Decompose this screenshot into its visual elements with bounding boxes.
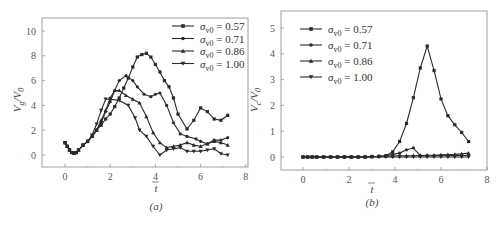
triangle-up-marker-icon	[144, 114, 148, 118]
circle-marker-icon	[412, 146, 415, 149]
square-marker-icon	[398, 140, 401, 143]
triangle-down-marker-icon	[158, 153, 162, 157]
square-marker-icon	[467, 140, 470, 143]
square-marker-icon	[185, 127, 188, 130]
legend-label: σv0 = 0.57	[328, 23, 373, 38]
plot-frame-b	[281, 11, 487, 170]
y-tick-label: 3	[270, 74, 275, 85]
panel-a: 024680246810 σv0 = 0.57σv0 = 0.71σv0 = 0…	[11, 18, 248, 213]
square-marker-icon	[113, 105, 116, 108]
circle-marker-icon	[149, 95, 152, 98]
triangle-down-marker-icon	[99, 109, 103, 113]
panel-label-b: (b)	[366, 196, 379, 209]
square-marker-icon	[433, 69, 436, 72]
square-marker-icon	[163, 79, 166, 82]
square-marker-icon	[439, 97, 442, 100]
circle-marker-icon	[199, 140, 202, 143]
panel-b: 02468012345 σv0 = 0.57σv0 = 0.71σv0 = 0.…	[248, 11, 490, 209]
circle-marker-icon	[154, 93, 157, 96]
square-marker-icon	[140, 53, 143, 56]
square-marker-icon	[172, 96, 175, 99]
figure: 024680246810 σv0 = 0.57σv0 = 0.71σv0 = 0…	[0, 0, 502, 227]
circle-marker-icon	[118, 79, 121, 82]
circle-marker-icon	[165, 104, 168, 107]
y-axis-label-b: Vc/V0	[248, 88, 263, 112]
axis-ticks-b: 02468012345	[270, 23, 490, 186]
x-tick-label: 6	[198, 171, 203, 182]
square-marker-icon	[192, 119, 195, 122]
square-marker-icon	[453, 123, 456, 126]
square-marker-icon	[122, 86, 125, 89]
square-marker-icon	[219, 119, 222, 122]
square-marker-icon	[405, 122, 408, 125]
circle-marker-icon	[185, 135, 188, 138]
square-marker-icon	[131, 65, 134, 68]
square-marker-icon	[109, 112, 112, 115]
circle-marker-icon	[124, 74, 127, 77]
square-marker-icon	[226, 114, 229, 117]
legend-b: σv0 = 0.57σv0 = 0.71σv0 = 0.86σv0 = 1.00	[300, 23, 373, 86]
x-tick-label: 8	[243, 171, 248, 182]
square-marker-icon	[460, 131, 463, 134]
legend-item: σv0 = 0.57	[300, 23, 373, 38]
triangle-down-marker-icon	[95, 122, 99, 126]
x-tick-label: 8	[485, 174, 490, 185]
circle-marker-icon	[405, 148, 408, 151]
triangle-up-marker-icon	[185, 141, 189, 145]
circle-marker-icon	[226, 136, 229, 139]
y-tick-label: 2	[270, 100, 275, 111]
square-marker-icon	[158, 70, 161, 73]
square-marker-icon	[426, 44, 429, 47]
circle-marker-icon	[181, 37, 185, 41]
square-marker-icon	[181, 24, 185, 28]
circle-marker-icon	[143, 93, 146, 96]
square-marker-icon	[176, 112, 179, 115]
square-marker-icon	[149, 55, 152, 58]
circle-marker-icon	[158, 91, 161, 94]
triangle-down-marker-icon	[133, 116, 137, 120]
y-tick-label: 4	[31, 100, 36, 111]
y-tick-label: 6	[31, 75, 36, 86]
y-tick-label: 10	[26, 26, 36, 37]
legend-item: σv0 = 0.71	[300, 39, 372, 54]
circle-marker-icon	[179, 132, 182, 135]
x-axis-label-a: t	[154, 182, 158, 194]
y-tick-label: 4	[270, 48, 275, 59]
x-tick-label: 0	[301, 174, 306, 185]
y-tick-label: 1	[270, 126, 275, 137]
legend-item: σv0 = 1.00	[300, 71, 373, 86]
triangle-up-marker-icon	[151, 131, 155, 135]
square-marker-icon	[213, 117, 216, 120]
circle-marker-icon	[136, 85, 139, 88]
y-tick-label: 5	[270, 23, 275, 34]
x-tick-label: 2	[347, 174, 352, 185]
data-series	[301, 44, 470, 158]
square-marker-icon	[206, 110, 209, 113]
square-marker-icon	[446, 114, 449, 117]
square-marker-icon	[145, 52, 148, 55]
x-tick-label: 4	[153, 171, 158, 182]
square-marker-icon	[199, 106, 202, 109]
square-marker-icon	[309, 27, 313, 31]
data-series	[63, 98, 230, 158]
legend-item: σv0 = 0.86	[300, 55, 373, 70]
series-b	[301, 44, 471, 159]
circle-marker-icon	[172, 121, 175, 124]
legend-label: σv0 = 1.00	[328, 71, 373, 86]
square-marker-icon	[154, 63, 157, 66]
y-tick-label: 2	[31, 125, 36, 136]
x-axis-label-b: t	[370, 183, 374, 195]
y-axis-label-a: Vg/V0	[11, 88, 26, 113]
circle-marker-icon	[194, 137, 197, 140]
y-tick-label: 0	[31, 150, 36, 161]
data-series	[63, 88, 230, 154]
x-tick-label: 2	[108, 171, 113, 182]
square-marker-icon	[136, 55, 139, 58]
x-tick-label: 4	[393, 174, 398, 185]
square-marker-icon	[412, 96, 415, 99]
circle-marker-icon	[309, 43, 313, 47]
y-tick-label: 8	[31, 50, 36, 61]
circle-marker-icon	[131, 79, 134, 82]
square-marker-icon	[167, 85, 170, 88]
legend-label: σv0 = 0.86	[328, 55, 373, 70]
